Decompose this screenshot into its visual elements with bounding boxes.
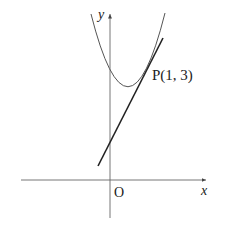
diagram-canvas: y x O P(1, 3) (0, 0, 228, 226)
tangent-line (98, 38, 163, 166)
point-p-label: P(1, 3) (152, 67, 193, 84)
y-axis-label: y (96, 7, 105, 22)
x-axis-label: x (200, 183, 208, 198)
origin-label: O (114, 185, 124, 200)
